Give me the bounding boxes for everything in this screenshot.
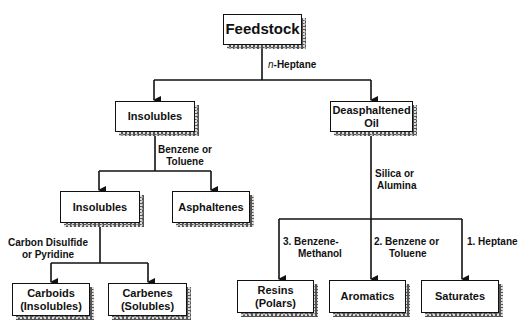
- node-label: Feedstock: [225, 21, 299, 38]
- edge-label-n-heptane: n-Heptane: [268, 59, 316, 71]
- node-resins: Resins (Polars): [237, 280, 314, 313]
- node-feedstock: Feedstock: [223, 14, 302, 45]
- node-saturates: Saturates: [421, 280, 499, 313]
- node-insolubles-2: Insolubles: [60, 191, 140, 223]
- edge-label-step-3: 3. Benzene- Methanol: [283, 236, 342, 259]
- node-carbenes: Carbenes (Solubles): [108, 283, 187, 316]
- edge-label-step-1: 1. Heptane: [467, 236, 518, 248]
- edge-label-benzene-toluene: Benzene or Toluene: [158, 144, 212, 167]
- node-aromatics: Aromatics: [329, 280, 406, 313]
- edge-label-step-2: 2. Benzene or Toluene: [374, 236, 439, 259]
- node-carboids: Carboids (Insolubles): [12, 283, 90, 316]
- edge-label-carbon-disulfide: Carbon Disulfide or Pyridine: [8, 237, 88, 260]
- edge-label-silica-alumina: Silica or Alumina: [375, 168, 416, 191]
- node-deasphaltened-oil: Deasphaltened Oil: [330, 101, 413, 132]
- node-insolubles: Insolubles: [115, 101, 195, 132]
- node-asphaltenes: Asphaltenes: [172, 191, 250, 223]
